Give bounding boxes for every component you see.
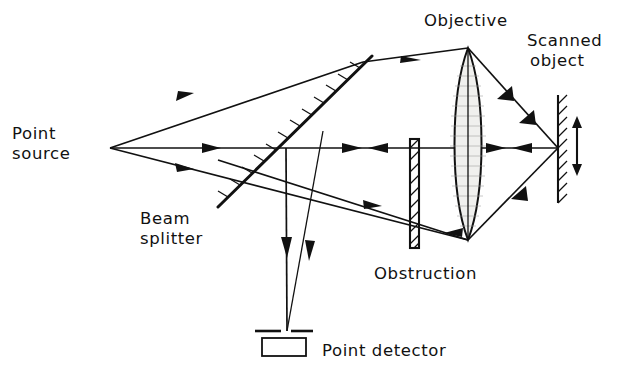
- arrowhead-axis-mid-right: [342, 143, 362, 153]
- label-beam-splitter-line1: Beam: [140, 209, 190, 228]
- label-point-detector: Point detector: [322, 341, 446, 360]
- label-beam-splitter-line2: splitter: [140, 229, 203, 248]
- arrowhead-source-lower: [175, 163, 194, 172]
- arrowhead-detector-vertical: [281, 237, 292, 258]
- label-scanned-object-line2: object: [530, 51, 584, 70]
- point-detector-assembly: [255, 331, 313, 356]
- arrowhead-axis-left: [202, 143, 221, 153]
- arrowhead-detector-slant: [305, 240, 315, 261]
- arrowhead-object-return-upper2: [519, 110, 536, 125]
- scan-arrow-down: [572, 164, 582, 176]
- label-objective: Objective: [424, 11, 508, 30]
- scan-direction-arrow: [572, 116, 582, 176]
- label-point-source-line2: source: [12, 144, 70, 163]
- detector-body: [262, 338, 306, 356]
- scanned-object-assembly: [558, 95, 582, 203]
- scanned-object-hatching: [558, 95, 567, 203]
- arrowhead-to-objective-top: [400, 56, 421, 63]
- arrowhead-axis-obj-left: [512, 143, 532, 153]
- ray-source-upper: [110, 62, 363, 148]
- label-point-source-line1: Point: [12, 124, 56, 143]
- ray-diagram-canvas: Point source Beam splitter Objective Sca…: [0, 0, 621, 367]
- arrowhead-axis-mid-left: [368, 143, 388, 153]
- arrowhead-return-mid: [363, 200, 382, 209]
- objective-lens-assembly: [450, 48, 486, 240]
- beam-splitter-hatching: [218, 62, 360, 197]
- label-obstruction: Obstruction: [374, 264, 477, 283]
- arrowhead-object-return-upper: [497, 86, 514, 101]
- arrowhead-source-upper: [176, 91, 194, 101]
- scan-arrow-up: [572, 116, 582, 128]
- obstruction-hatching: [410, 139, 419, 248]
- arrowhead-axis-obj-right: [486, 143, 506, 153]
- ray-splitter-to-detector-slant: [287, 131, 323, 331]
- label-scanned-object-line1: Scanned: [527, 31, 602, 50]
- optical-diagram-figure: Point source Beam splitter Objective Sca…: [0, 0, 621, 367]
- obstruction-assembly: [410, 139, 419, 248]
